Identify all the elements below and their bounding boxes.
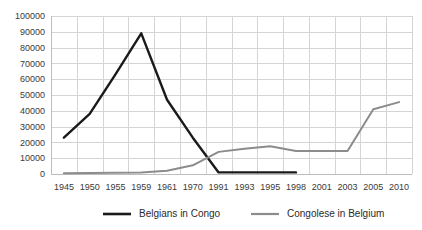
y-tick-label: 80000 <box>20 43 45 53</box>
x-tick-label: 2010 <box>389 182 409 192</box>
series-line-0 <box>64 33 296 172</box>
legend-label-0: Belgians in Congo <box>139 208 221 219</box>
x-tick-label: 1945 <box>54 182 74 192</box>
y-tick-label: 50000 <box>20 90 45 100</box>
x-axis-tick-labels: 1945195019551959196119701991199319951998… <box>54 182 409 192</box>
chart-legend: Belgians in CongoCongolese in Belgium <box>103 208 384 219</box>
y-tick-label: 10000 <box>20 153 45 163</box>
legend-label-1: Congolese in Belgium <box>287 208 384 219</box>
x-tick-label: 1993 <box>234 182 254 192</box>
x-tick-label: 2001 <box>312 182 332 192</box>
x-tick-label: 1959 <box>131 182 151 192</box>
y-tick-label: 60000 <box>20 74 45 84</box>
y-tick-label: 0 <box>40 169 45 179</box>
x-tick-label: 1998 <box>286 182 306 192</box>
line-chart: 0100002000030000400005000060000700008000… <box>0 0 422 230</box>
y-tick-label: 70000 <box>20 59 45 69</box>
data-series-lines <box>64 33 399 173</box>
y-tick-label: 40000 <box>20 106 45 116</box>
y-tick-label: 30000 <box>20 122 45 132</box>
series-line-1 <box>64 102 399 173</box>
y-axis-tick-labels: 0100002000030000400005000060000700008000… <box>15 11 45 179</box>
x-tick-label: 2003 <box>338 182 358 192</box>
y-tick-label: 20000 <box>20 138 45 148</box>
x-tick-label: 1970 <box>183 182 203 192</box>
x-tick-label: 1950 <box>80 182 100 192</box>
x-tick-label: 1961 <box>157 182 177 192</box>
x-tick-label: 2005 <box>363 182 383 192</box>
y-tick-label: 90000 <box>20 27 45 37</box>
y-tick-label: 100000 <box>15 11 45 21</box>
x-tick-label: 1991 <box>209 182 229 192</box>
x-tick-label: 1955 <box>105 182 125 192</box>
x-tick-label: 1995 <box>260 182 280 192</box>
chart-container: 0100002000030000400005000060000700008000… <box>0 0 422 230</box>
